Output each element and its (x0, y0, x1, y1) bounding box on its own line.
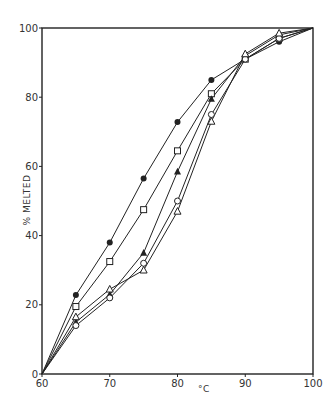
open-square-marker-icon (141, 207, 147, 213)
open-triangle-marker-icon (242, 50, 249, 57)
open-triangle-marker-icon (106, 285, 113, 292)
y-tick-label: 60 (25, 161, 38, 172)
filled-circle-marker-icon (208, 77, 214, 83)
open-square-marker-icon (73, 304, 79, 310)
open-circle-marker-icon (73, 323, 79, 329)
filled-circle-marker-icon (73, 292, 79, 298)
filled-triangle-marker-icon (174, 168, 181, 175)
y-tick-label: 40 (25, 230, 38, 241)
y-tick-label: 80 (25, 92, 38, 103)
x-tick-label: 80 (171, 378, 184, 389)
open-square-marker-icon (107, 259, 113, 265)
open-triangle-marker-icon (72, 313, 79, 320)
x-tick-label: 100 (303, 378, 322, 389)
open-triangle-marker-icon (174, 208, 181, 215)
filled-circle-marker-icon (141, 176, 147, 182)
y-tick-label: 20 (25, 299, 38, 310)
x-axis-label: °C (198, 384, 210, 394)
x-tick-label: 60 (36, 378, 49, 389)
filled-circle-marker-icon (175, 119, 181, 125)
melting-curve-chart: 020406080100 60708090100 % MELTED °C (0, 0, 336, 414)
series-markers (72, 29, 282, 328)
open-circle-marker-icon (175, 198, 181, 204)
y-tick-label: 100 (19, 23, 38, 34)
x-tick-label: 90 (239, 378, 252, 389)
x-tick-label: 70 (103, 378, 116, 389)
filled-circle-marker-icon (107, 240, 113, 246)
y-axis-label: % MELTED (22, 175, 32, 226)
x-axis-ticks: 60708090100 (36, 374, 323, 389)
filled-triangle-marker-icon (140, 249, 147, 256)
open-circle-marker-icon (107, 295, 113, 301)
open-square-marker-icon (175, 148, 181, 154)
open-triangle-marker-icon (140, 266, 147, 273)
